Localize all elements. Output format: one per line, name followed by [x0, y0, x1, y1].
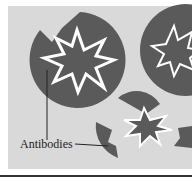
antibodies-label: Antibodies [20, 137, 73, 152]
antibody-circle-1 [30, 12, 126, 108]
antibody-circle-3 [96, 91, 192, 158]
bottom-rule [0, 175, 192, 177]
antibody-diagram [0, 0, 192, 181]
antibody-circle-2 [140, 4, 192, 96]
